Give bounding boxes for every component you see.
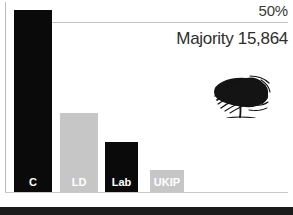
bar-ukip[interactable]: UKIP — [150, 170, 184, 192]
x-axis-baseline — [5, 192, 288, 193]
bar-liberal-democrat[interactable]: LD — [60, 113, 98, 192]
gridline-label-50-percent: 50% — [259, 2, 288, 20]
bar-label-conservative: C — [14, 176, 52, 188]
bar-label-labour: Lab — [105, 176, 138, 188]
bar-conservative[interactable]: C — [14, 10, 52, 192]
oak-tree-icon — [206, 70, 278, 118]
bar-labour[interactable]: Lab — [105, 142, 138, 192]
election-bar-chart-panel: 50% Majority 15,864 — [0, 0, 293, 215]
gridline-50-percent — [51, 22, 288, 23]
y-axis-line — [5, 2, 6, 192]
bottom-band — [0, 207, 293, 215]
bar-label-liberal-democrat: LD — [60, 176, 98, 188]
bar-label-ukip: UKIP — [150, 176, 184, 188]
majority-caption: Majority 15,864 — [176, 28, 288, 49]
